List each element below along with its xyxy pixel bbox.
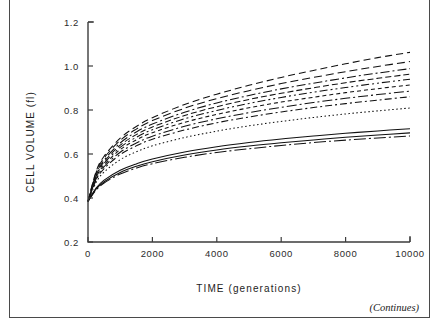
y-tick-label: 0.4 — [64, 193, 79, 204]
x-tick-label: 0 — [85, 248, 91, 259]
line-chart: 0200040006000800010000 0.20.40.60.81.01.… — [0, 0, 439, 327]
x-tick-label: 8000 — [334, 248, 358, 259]
curves-group — [88, 52, 410, 201]
continues-note: (Continues) — [369, 302, 419, 313]
data-curve — [88, 129, 410, 202]
x-tick-label: 10000 — [395, 248, 424, 259]
y-tick-label: 1.2 — [64, 17, 79, 28]
data-curve — [88, 74, 410, 201]
y-tick-label: 0.6 — [64, 149, 79, 160]
chart-container: 0200040006000800010000 0.20.40.60.81.01.… — [0, 0, 439, 327]
y-axis-title: CELL VOLUME (fl) — [25, 91, 36, 193]
y-tick-label: 0.2 — [64, 237, 79, 248]
y-tick-label: 0.8 — [64, 105, 79, 116]
y-tick-label: 1.0 — [64, 61, 79, 72]
y-tick-labels: 0.20.40.60.81.01.2 — [64, 17, 79, 248]
x-tick-labels: 0200040006000800010000 — [85, 248, 425, 259]
data-curve — [88, 79, 410, 201]
data-curve — [88, 108, 410, 201]
x-tick-label: 2000 — [141, 248, 165, 259]
x-tick-label: 4000 — [205, 248, 229, 259]
x-axis-title: TIME (generations) — [196, 283, 301, 294]
x-tick-label: 6000 — [269, 248, 293, 259]
data-curve — [88, 52, 410, 201]
